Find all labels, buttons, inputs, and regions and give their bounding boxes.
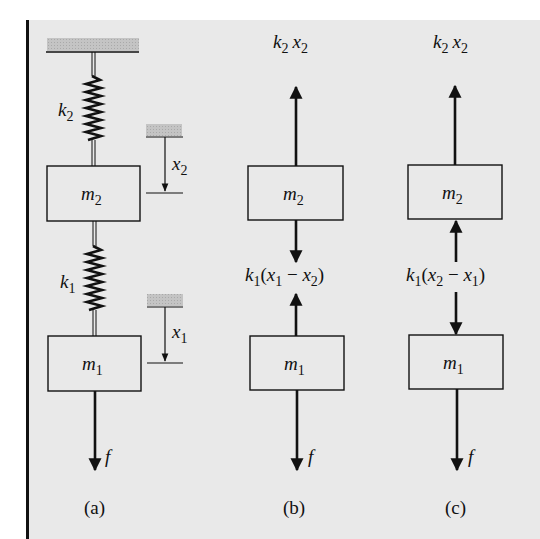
caption-a: (a) bbox=[84, 497, 105, 519]
spring-mass-diagram: k2 m2 x2 k1 m1 x1 f (a) bbox=[0, 0, 540, 539]
spring-force-label-b: k1(x1 − x2) bbox=[245, 264, 324, 289]
mass-m1-label-c: m1 bbox=[443, 352, 464, 377]
x1-label: x1 bbox=[171, 321, 187, 346]
mass-m2-label-a: m2 bbox=[81, 183, 102, 208]
force-k2x2-label-c: k2x2 bbox=[433, 31, 468, 56]
spring-k1 bbox=[87, 221, 102, 336]
spring-force-label-c: k1(x2 − x1) bbox=[406, 264, 485, 289]
mass-m1-label-a: m1 bbox=[82, 353, 103, 378]
caption-b: (b) bbox=[283, 497, 305, 519]
mass-m1-label-b: m1 bbox=[284, 353, 305, 378]
panel-b: k2x2 m2 k1(x1 − x2) m1 f (b) bbox=[245, 31, 344, 519]
ceiling-hatch bbox=[47, 38, 139, 51]
force-f-label-a: f bbox=[105, 446, 113, 467]
x2-label: x2 bbox=[171, 153, 187, 178]
mass-m2-label-c: m2 bbox=[442, 182, 463, 207]
caption-c: (c) bbox=[445, 497, 466, 519]
spring-k1-label: k1 bbox=[60, 271, 75, 296]
force-f-label-c: f bbox=[468, 446, 476, 467]
spring-k2 bbox=[86, 52, 101, 166]
x2-reference-hatch bbox=[146, 124, 182, 136]
panel-a: k2 m2 x2 k1 m1 x1 f (a) bbox=[46, 38, 187, 519]
force-k2x2-label-b: k2x2 bbox=[273, 31, 308, 56]
force-f-label-b: f bbox=[308, 446, 316, 467]
panel-c: k2x2 m2 k1(x2 − x1) m1 f (c) bbox=[406, 31, 503, 519]
x1-reference-hatch bbox=[147, 294, 183, 306]
mass-m2-label-b: m2 bbox=[283, 183, 304, 208]
spring-k2-label: k2 bbox=[58, 99, 73, 124]
